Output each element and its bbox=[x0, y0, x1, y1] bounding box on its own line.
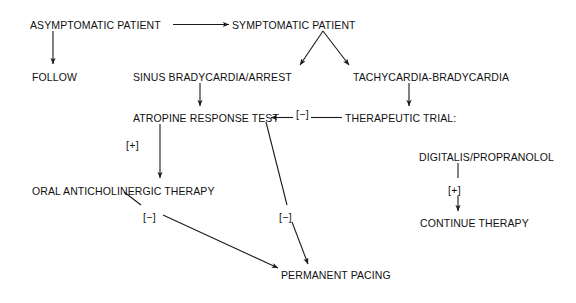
edge-label-oral-negative: [−] bbox=[143, 212, 156, 223]
node-permanent-pacing: PERMANENT PACING bbox=[281, 270, 391, 281]
edge-oral-to-pacing-lower bbox=[163, 215, 278, 268]
node-tachycardia-bradycardia: TACHYCARDIA-BRADYCARDIA bbox=[353, 72, 509, 83]
node-symptomatic-patient: SYMPTOMATIC PATIENT bbox=[232, 20, 356, 31]
edge-symptomatic-to-sinus bbox=[300, 31, 323, 65]
node-sinus-bradycardia-arrest: SINUS BRADYCARDIA/ARREST bbox=[133, 72, 292, 83]
node-atropine-response-test: ATROPINE RESPONSE TEST bbox=[133, 113, 279, 124]
edge-atropine-to-pacing-lower bbox=[292, 222, 308, 264]
edge-atropine-to-pacing-upper bbox=[266, 122, 287, 205]
node-oral-anticholinergic-therapy: ORAL ANTICHOLINERGIC THERAPY bbox=[32, 186, 215, 197]
edge-label-atropine-positive: [+] bbox=[126, 140, 139, 151]
edge-symptomatic-to-tachybrady bbox=[323, 31, 349, 65]
edge-label-atropine-negative: [−] bbox=[279, 212, 292, 223]
node-follow: FOLLOW bbox=[32, 72, 77, 83]
flowchart-canvas: ASYMPTOMATIC PATIENT SYMPTOMATIC PATIENT… bbox=[0, 0, 576, 303]
node-digitalis-propranolol: DIGITALIS/PROPRANOLOL bbox=[419, 152, 554, 163]
node-therapeutic-trial: THERAPEUTIC TRIAL: bbox=[345, 113, 456, 124]
node-continue-therapy: CONTINUE THERAPY bbox=[420, 218, 529, 229]
node-asymptomatic-patient: ASYMPTOMATIC PATIENT bbox=[30, 20, 161, 31]
edge-label-therapeutic-negative: [−] bbox=[296, 109, 309, 120]
edge-label-digitalis-positive: [+] bbox=[448, 185, 461, 196]
